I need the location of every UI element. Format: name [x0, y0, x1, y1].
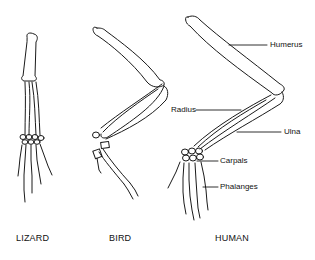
lizard-radius [25, 82, 30, 135]
title-bird: BIRD [109, 233, 131, 243]
bird-ulna [101, 86, 168, 139]
bird-forelimb [93, 27, 168, 199]
lizard-ulna [32, 82, 40, 135]
forelimb-diagram [0, 0, 315, 260]
label-phalanges: Phalanges [220, 182, 258, 191]
label-humerus: Humerus [270, 40, 302, 49]
bird-humerus [93, 27, 164, 87]
human-radius [194, 95, 271, 147]
human-ulna [200, 92, 283, 150]
bird-radius [101, 84, 162, 132]
human-phalanges [168, 162, 208, 220]
lizard-forelimb [18, 33, 52, 202]
lizard-phalanges [18, 144, 52, 202]
title-lizard: LIZARD [16, 233, 49, 243]
title-human: HUMAN [215, 233, 249, 243]
lizard-humerus [22, 33, 38, 81]
label-radius: Radius [171, 105, 196, 114]
human-humerus [186, 16, 285, 95]
lizard-carpals [20, 135, 44, 145]
bird-phalanges [97, 149, 138, 199]
label-ulna: Ulna [284, 127, 300, 136]
human-carpals [182, 148, 204, 161]
label-carpals: Carpals [220, 156, 248, 165]
